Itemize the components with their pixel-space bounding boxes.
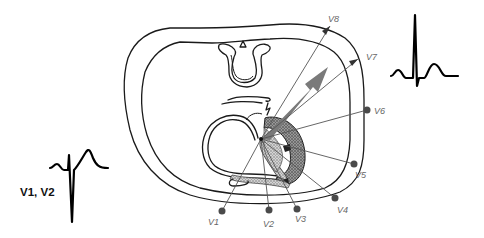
- lead-label-v3: V3: [295, 214, 306, 224]
- lead-rays: [222, 26, 367, 211]
- mediastinum: [222, 97, 270, 115]
- lead-label-v6: V6: [374, 106, 385, 116]
- sternum-triangle-icon: [240, 41, 246, 47]
- electrode-v5: [351, 161, 358, 168]
- lead-label-v8: V8: [328, 14, 339, 24]
- electrode-v2: [266, 207, 273, 214]
- chest-ecg-diagram: V1 V2 V3 V4 V5 V6 V7 V8 V1, V2: [0, 0, 484, 238]
- heart: [203, 113, 306, 188]
- lead-labels: V1 V2 V3 V4 V5 V6 V7 V8: [208, 14, 385, 229]
- electrode-v1: [219, 208, 226, 215]
- electrode-v3: [294, 206, 301, 213]
- spine-vertebra: [219, 41, 271, 87]
- lead-label-v5: V5: [355, 170, 367, 180]
- lead-label-v2: V2: [263, 219, 274, 229]
- electrode-v6: [364, 107, 371, 114]
- lead-label-v7: V7: [366, 52, 378, 62]
- ecg-trace-v1-v2-icon: [50, 150, 108, 222]
- lead-label-v1: V1: [208, 217, 219, 227]
- lead-label-v4: V4: [337, 205, 348, 215]
- electrode-v4: [332, 195, 339, 202]
- ecg-label-v1-v2: V1, V2: [20, 186, 55, 198]
- ecg-trace-lateral-icon: [391, 15, 458, 86]
